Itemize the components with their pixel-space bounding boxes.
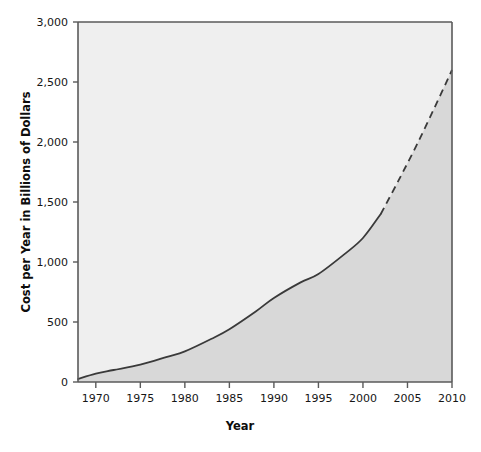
x-tick-label: 2005 — [393, 392, 421, 405]
y-tick-label: 2,500 — [37, 76, 69, 89]
y-tick-label: 500 — [47, 316, 68, 329]
y-tick-label: 3,000 — [37, 16, 69, 29]
y-tick-label: 1,500 — [37, 196, 69, 209]
x-axis-title: Year — [225, 419, 255, 433]
x-tick-label: 1975 — [126, 392, 154, 405]
cost-per-year-area-chart: 05001,0001,5002,0002,5003,000 1970197519… — [0, 0, 481, 452]
x-tick-label: 1970 — [82, 392, 110, 405]
y-tick-label: 0 — [61, 376, 68, 389]
x-tick-label: 1980 — [171, 392, 199, 405]
chart-page: 05001,0001,5002,0002,5003,000 1970197519… — [0, 0, 481, 452]
x-tick-label: 1985 — [215, 392, 243, 405]
y-tick-label: 1,000 — [37, 256, 69, 269]
x-axis-ticks: 197019751980198519901995200020052010 — [82, 382, 466, 405]
x-tick-label: 1995 — [304, 392, 332, 405]
x-tick-label: 1990 — [260, 392, 288, 405]
x-tick-label: 2010 — [438, 392, 466, 405]
y-axis-title: Cost per Year in Billions of Dollars — [19, 91, 33, 312]
x-tick-label: 2000 — [349, 392, 377, 405]
y-tick-label: 2,000 — [37, 136, 69, 149]
y-axis-ticks: 05001,0001,5002,0002,5003,000 — [37, 16, 79, 389]
